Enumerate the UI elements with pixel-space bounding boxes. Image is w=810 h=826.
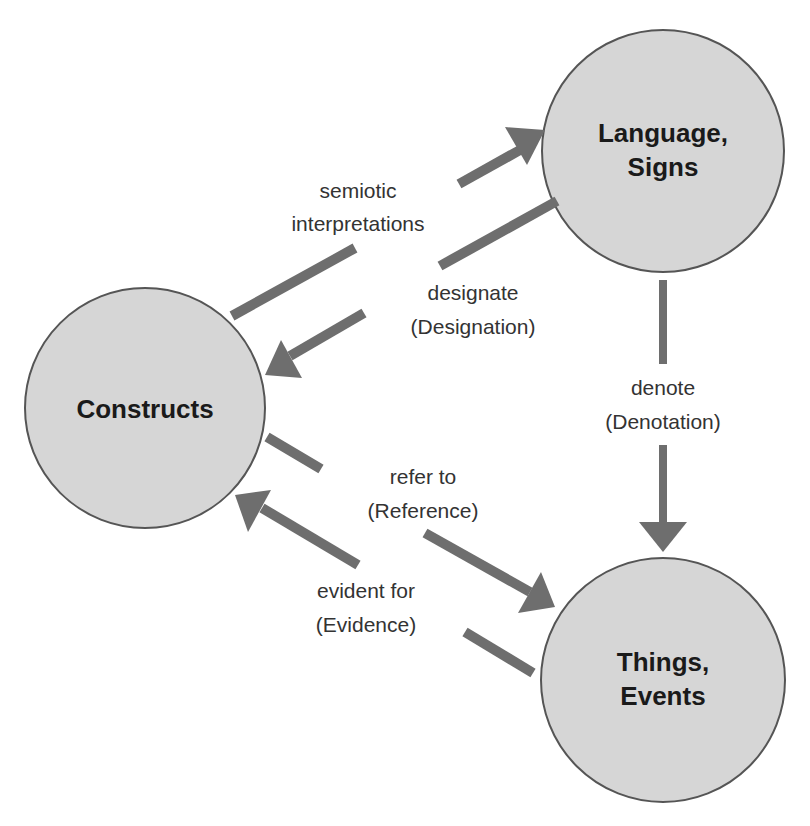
arrow-shaft-segment <box>290 313 364 356</box>
edge-label-line1: refer to <box>390 465 457 488</box>
node-constructs: Constructs <box>25 288 265 528</box>
node-things-events: Things, Events <box>541 558 785 802</box>
arrow-shaft-segment <box>465 632 533 673</box>
edge-label-line1: evident for <box>317 579 415 602</box>
node-language-label-line1: Language, <box>598 118 728 148</box>
arrow-shaft-segment <box>425 533 530 592</box>
arrowhead-icon <box>265 340 302 378</box>
edge-label-line1: denote <box>631 376 695 399</box>
edge-label-line2: (Denotation) <box>605 410 721 433</box>
edge-label-line2: (Designation) <box>411 315 536 338</box>
semiotic-triangle-diagram: Language, Signs Constructs Things, Event… <box>0 0 810 826</box>
edge-label-line2: interpretations <box>291 212 424 235</box>
node-language-label-line2: Signs <box>628 152 699 182</box>
node-things-label-line2: Events <box>620 681 705 711</box>
arrowhead-icon <box>639 522 687 552</box>
arrow-shaft-segment <box>262 508 358 565</box>
node-things-label-line1: Things, <box>617 647 709 677</box>
edge-label-line1: semiotic <box>319 179 396 202</box>
arrow-shaft-segment <box>232 248 355 316</box>
arrow-shaft-segment <box>440 201 557 266</box>
edge-label-line2: (Reference) <box>368 499 479 522</box>
node-constructs-label: Constructs <box>76 394 213 424</box>
edge-label-line1: designate <box>427 281 518 304</box>
node-language-signs: Language, Signs <box>542 30 784 272</box>
arrow-shaft-segment <box>267 437 321 469</box>
arrow-shaft-segment <box>459 150 520 184</box>
edge-denote: denote (Denotation) <box>605 280 721 552</box>
edge-label-line2: (Evidence) <box>316 613 416 636</box>
